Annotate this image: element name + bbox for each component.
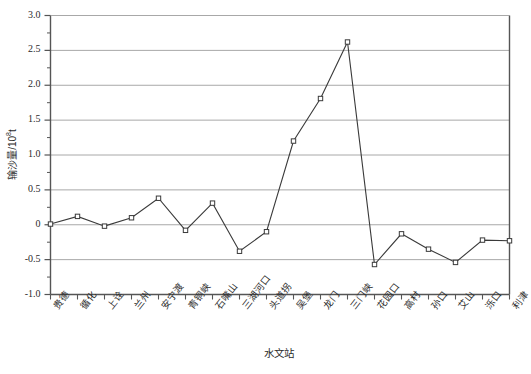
data-point-marker <box>183 228 187 232</box>
data-point-marker <box>102 224 106 228</box>
data-point-marker <box>426 247 430 251</box>
data-point-marker <box>48 222 52 226</box>
data-point-marker <box>399 232 403 236</box>
data-point-marker <box>129 216 133 220</box>
data-point-marker <box>480 238 484 242</box>
data-point-marker <box>507 239 511 243</box>
y-axis-title-base: 输沙量/10 <box>7 136 18 180</box>
data-point-marker <box>264 230 268 234</box>
data-point-marker <box>318 96 322 100</box>
data-point-marker <box>291 139 295 143</box>
y-axis-title-unit: t <box>7 129 18 132</box>
series-polyline <box>51 42 510 265</box>
y-axis-title-exponent: 8 <box>5 132 12 136</box>
y-tick-label: -0.5 <box>0 253 41 264</box>
x-axis-title: 水文站 <box>264 345 294 360</box>
data-point-marker <box>210 201 214 205</box>
data-point-marker <box>372 262 376 266</box>
y-tick-label: 3.0 <box>0 9 41 20</box>
y-tick-label: 2.5 <box>0 43 41 54</box>
gridlines-group <box>51 16 510 260</box>
y-tick-label: 2.0 <box>0 78 41 89</box>
data-point-marker <box>156 196 160 200</box>
data-point-markers <box>48 40 511 267</box>
y-tick-label: -1.0 <box>0 288 41 299</box>
y-tick-marks <box>45 16 51 295</box>
data-series-line <box>51 42 510 265</box>
data-point-marker <box>453 260 457 264</box>
y-axis-title: 输沙量/108t <box>4 120 19 190</box>
data-point-marker <box>345 40 349 44</box>
data-point-marker <box>237 249 241 253</box>
data-point-marker <box>75 214 79 218</box>
y-tick-label: 0 <box>0 218 41 229</box>
